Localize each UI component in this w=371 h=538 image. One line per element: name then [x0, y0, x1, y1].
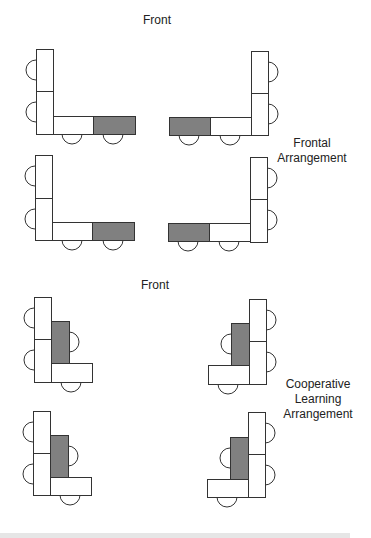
- student-desk: [250, 300, 267, 342]
- chair-icon: [221, 334, 231, 354]
- chair-icon: [103, 240, 123, 250]
- chair-icon: [25, 209, 35, 229]
- chair-icon: [178, 241, 198, 251]
- shaded-desk: [231, 438, 249, 480]
- student-desk: [35, 340, 52, 383]
- classroom-arrangement-diagram: Front Frontal Arrangement Front Cooperat…: [0, 0, 371, 538]
- frontal-arrangement-label-line-1: Frontal: [252, 136, 371, 151]
- shaded-desk: [94, 117, 136, 135]
- student-desk: [251, 200, 268, 243]
- student-desk: [34, 412, 51, 454]
- student-desk: [210, 224, 251, 242]
- chair-icon: [268, 62, 278, 82]
- chair-icon: [103, 134, 123, 144]
- student-desk: [54, 117, 94, 135]
- chair-icon: [268, 104, 278, 124]
- chair-icon: [220, 448, 230, 468]
- chair-icon: [62, 134, 82, 144]
- student-desk: [208, 480, 249, 498]
- student-desk: [52, 364, 93, 383]
- chair-icon: [60, 495, 80, 505]
- chair-icon: [267, 210, 277, 230]
- frontal-group-bottom-left: [25, 156, 135, 251]
- chair-icon: [219, 241, 239, 251]
- chair-icon: [220, 135, 240, 145]
- student-desk: [249, 455, 266, 498]
- chair-icon: [68, 446, 78, 466]
- student-desk: [209, 366, 250, 385]
- chair-icon: [265, 465, 275, 485]
- student-desk: [37, 92, 54, 135]
- cooperative-group-bottom-right: [208, 413, 276, 508]
- shaded-desk: [93, 223, 135, 241]
- chair-icon: [267, 168, 277, 188]
- chair-icon: [24, 308, 34, 328]
- frontal-arrangement-label: Frontal Arrangement: [252, 136, 371, 166]
- cooperative-group-bottom-left: [23, 412, 92, 506]
- student-desk: [36, 156, 53, 199]
- chair-icon: [266, 352, 276, 372]
- chair-icon: [23, 464, 33, 484]
- cooperative-arrangement-label: Cooperative Learning Arrangement: [258, 377, 371, 422]
- shaded-desk: [232, 324, 250, 366]
- page-bottom-band: [0, 533, 350, 538]
- student-desk: [211, 118, 252, 136]
- chair-icon: [217, 497, 237, 507]
- chair-icon: [62, 240, 82, 250]
- student-desk: [252, 52, 269, 94]
- chair-icon: [26, 60, 36, 80]
- shaded-desk: [52, 322, 70, 364]
- chair-icon: [24, 350, 34, 370]
- frontal-group-bottom-right: [169, 158, 278, 252]
- student-desk: [53, 223, 93, 241]
- frontal-group-top-right: [170, 52, 279, 146]
- chair-icon: [266, 310, 276, 330]
- chair-icon: [23, 422, 33, 442]
- cooperative-arrangement-label-line-2: Learning: [258, 392, 371, 407]
- desk-layout-canvas: [0, 0, 371, 538]
- student-desk: [35, 298, 52, 340]
- student-desk: [51, 478, 92, 496]
- cooperative-group-top-left: [24, 298, 93, 393]
- student-desk: [36, 199, 53, 241]
- cooperative-arrangement-label-line-3: Arrangement: [258, 407, 371, 422]
- frontal-front-label: Front: [97, 13, 217, 28]
- frontal-arrangement-label-line-2: Arrangement: [252, 151, 371, 166]
- chair-icon: [179, 135, 199, 145]
- student-desk: [34, 454, 51, 496]
- chair-icon: [265, 423, 275, 443]
- shaded-desk: [169, 224, 210, 242]
- cooperative-arrangement-label-line-1: Cooperative: [258, 377, 371, 392]
- student-desk: [252, 94, 269, 136]
- shaded-desk: [170, 118, 211, 136]
- chair-icon: [69, 332, 79, 352]
- shaded-desk: [51, 436, 69, 478]
- chair-icon: [26, 102, 36, 122]
- chair-icon: [61, 382, 81, 392]
- chair-icon: [25, 166, 35, 186]
- student-desk: [37, 50, 54, 92]
- chair-icon: [218, 384, 238, 394]
- cooperative-front-label: Front: [95, 278, 215, 293]
- frontal-group-top-left: [26, 50, 136, 145]
